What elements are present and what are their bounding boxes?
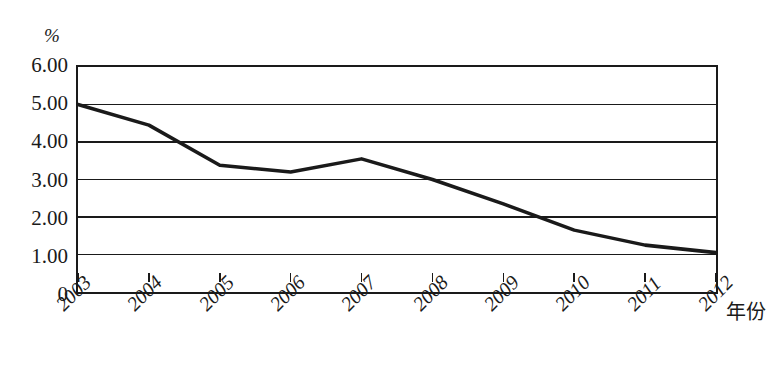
x-axis-labels: 2003200420052006200720082009201020112012 — [0, 0, 780, 377]
x-axis-tick-label: 2010 — [551, 272, 593, 314]
x-axis-tick-label: 2004 — [123, 272, 165, 314]
x-axis-title: 年份 — [726, 302, 766, 322]
x-axis-tick-label: 2003 — [52, 272, 94, 314]
x-axis-tick-label: 2005 — [195, 272, 237, 314]
x-axis-tick-label: 2008 — [409, 272, 451, 314]
x-axis-tick-label: 2009 — [480, 272, 522, 314]
x-axis-tick-label: 2006 — [266, 272, 308, 314]
line-chart: % 01.002.003.004.005.006.00 200320042005… — [0, 0, 780, 377]
x-axis-tick-label: 2011 — [623, 273, 664, 314]
x-axis-tick-label: 2007 — [337, 272, 379, 314]
